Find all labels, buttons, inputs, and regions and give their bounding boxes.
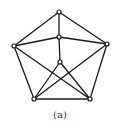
graph-diagram [0, 0, 120, 127]
node-bottom-left [32, 97, 36, 101]
node-bottom-right [88, 97, 92, 101]
figure-caption: (a) [0, 109, 120, 120]
graph-edges [14, 12, 107, 99]
edge-left-bottom-right [14, 46, 90, 99]
edge-left-bottom-left [14, 46, 34, 99]
node-inner [58, 60, 62, 64]
node-mid [57, 35, 61, 39]
edge-mid-right [59, 37, 107, 44]
edge-right-bottom-left [34, 44, 107, 99]
edge-right-bottom-right [90, 44, 107, 99]
edge-top-right [59, 12, 107, 44]
node-right [105, 42, 109, 46]
node-top [57, 10, 61, 14]
edge-inner-bottom-left [34, 62, 60, 99]
edge-mid-inner [59, 37, 60, 62]
node-left [12, 44, 16, 48]
